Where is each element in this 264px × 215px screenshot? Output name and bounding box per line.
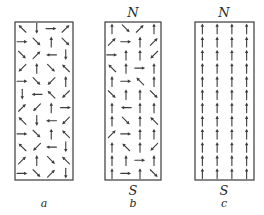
panel-a-caption: a xyxy=(41,198,48,209)
panel-b-north-label: N xyxy=(127,6,138,19)
panel-a xyxy=(15,22,73,180)
panel-c-box xyxy=(195,22,254,180)
panel-b xyxy=(105,22,161,180)
panel-a-box xyxy=(15,22,73,180)
panel-c-caption: c xyxy=(221,198,227,209)
panel-c-north-label: N xyxy=(218,6,229,19)
panel-b-south-label: S xyxy=(129,184,138,197)
panel-c-south-label: S xyxy=(220,184,229,197)
panel-b-caption: b xyxy=(129,198,136,209)
panel-b-box xyxy=(105,22,161,180)
panel-c xyxy=(195,22,254,180)
